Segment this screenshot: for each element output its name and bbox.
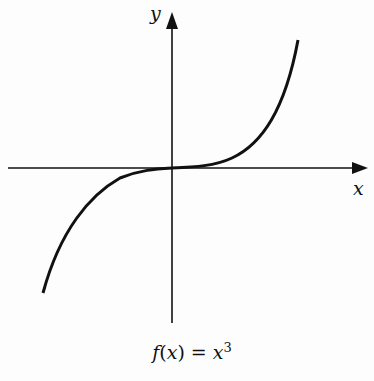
caption-exponent: 3 bbox=[224, 340, 232, 355]
function-caption: f(x) = x3 bbox=[0, 340, 374, 363]
caption-base: x bbox=[213, 341, 224, 363]
graph-canvas bbox=[0, 0, 374, 381]
caption-close: ) bbox=[177, 341, 184, 363]
x-axis-label: x bbox=[353, 177, 364, 199]
y-axis-arrow-icon bbox=[166, 12, 178, 29]
caption-var: x bbox=[167, 341, 178, 363]
caption-eq: = bbox=[185, 341, 213, 363]
caption-open: ( bbox=[159, 341, 166, 363]
y-axis-label: y bbox=[150, 2, 161, 24]
x-axis-arrow-icon bbox=[352, 162, 368, 174]
cubic-curve bbox=[43, 40, 298, 293]
